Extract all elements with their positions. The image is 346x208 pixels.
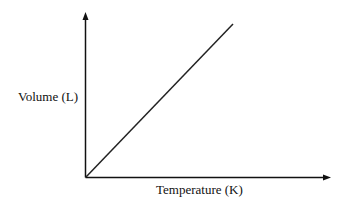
x-axis-label: Temperature (K) xyxy=(156,182,243,198)
x-axis xyxy=(86,175,332,181)
y-axis-arrow-icon xyxy=(83,12,89,20)
y-axis xyxy=(83,12,89,178)
y-axis-label: Volume (L) xyxy=(18,89,78,105)
x-axis-arrow-icon xyxy=(323,175,331,181)
data-line xyxy=(86,24,233,177)
